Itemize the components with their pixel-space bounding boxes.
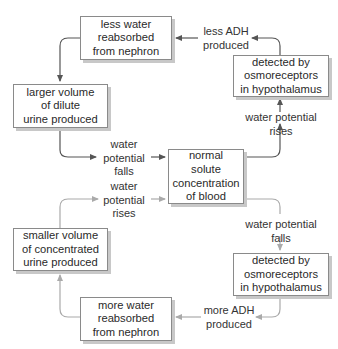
text: produced	[196, 39, 256, 53]
text: osmoreceptors	[244, 268, 318, 282]
label-water-potential-falls-lower: water potential falls	[236, 218, 326, 245]
text: falls	[96, 165, 152, 179]
arrow-urine-to-fall-upper	[60, 128, 96, 157]
text: detected by	[252, 254, 310, 268]
text: rises	[236, 125, 326, 139]
text: more ADH	[196, 304, 262, 318]
text: urine produced	[23, 113, 98, 127]
text: urine produced	[23, 256, 98, 270]
text: detected by	[252, 56, 310, 70]
text: rises	[96, 207, 152, 221]
box-smaller-volume-concentrated-urine: smaller volume of concentrated urine pro…	[13, 228, 108, 271]
center-line-4: of blood	[186, 190, 226, 204]
text: of dilute	[41, 99, 80, 113]
text: less water	[101, 18, 151, 32]
text: reabsorbed	[98, 31, 155, 45]
text: osmoreceptors	[244, 69, 318, 83]
label-more-adh-produced: more ADH produced	[196, 304, 262, 331]
text: from nephron	[93, 326, 160, 340]
center-box-normal-blood: normal solute concentration of blood	[168, 149, 244, 204]
center-line-1: normal	[189, 149, 223, 163]
text: from nephron	[93, 45, 160, 59]
text: potential	[96, 194, 152, 208]
text: falls	[236, 232, 326, 246]
box-detected-osmoreceptors-upper: detected by osmoreceptors in hypothalamu…	[233, 55, 329, 97]
arrow-reabsorb-to-urine-lower	[60, 275, 80, 317]
box-more-water-reabsorbed: more water reabsorbed from nephron	[80, 297, 172, 341]
text: in hypothalamus	[240, 83, 321, 97]
label-water-potential-rises-lower: water potential rises	[96, 180, 152, 221]
arrow-center-to-detect-lower	[244, 199, 280, 214]
center-line-2: solute	[191, 163, 221, 177]
arrow-urine-to-rise-lower	[60, 199, 98, 228]
text: produced	[196, 318, 262, 332]
center-line-3: concentration	[172, 177, 239, 191]
label-less-adh-produced: less ADH produced	[196, 25, 256, 52]
box-larger-volume-dilute-urine: larger volume of dilute urine produced	[13, 84, 108, 128]
text: reabsorbed	[98, 312, 155, 326]
box-detected-osmoreceptors-lower: detected by osmoreceptors in hypothalamu…	[233, 253, 329, 296]
text: less ADH	[196, 25, 256, 39]
text: potential	[96, 152, 152, 166]
text: in hypothalamus	[240, 281, 321, 295]
arrow-reabsorb-to-urine-upper	[60, 38, 80, 81]
text: smaller volume	[23, 229, 98, 243]
label-water-potential-falls-upper: water potential falls	[96, 138, 152, 179]
arrow-detect-to-adh-upper	[252, 38, 280, 55]
text: water	[96, 180, 152, 194]
text: of concentrated	[22, 243, 99, 257]
text: more water	[98, 299, 154, 313]
text: water potential	[236, 218, 326, 232]
text: water	[96, 138, 152, 152]
text: larger volume	[27, 86, 95, 100]
label-water-potential-rises-upper: water potential rises	[236, 111, 326, 138]
box-less-water-reabsorbed: less water reabsorbed from nephron	[80, 16, 172, 60]
text: water potential	[236, 111, 326, 125]
